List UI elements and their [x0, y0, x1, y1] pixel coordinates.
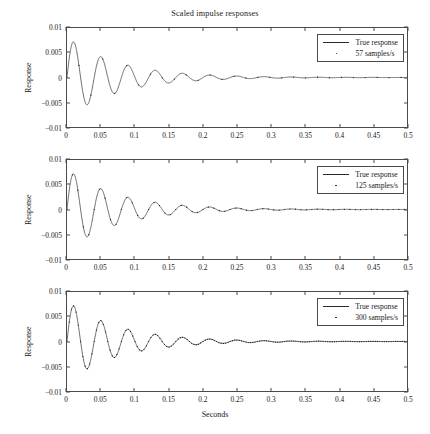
- x-tick-label: 0.4: [335, 131, 344, 140]
- x-tick-label: 0.35: [299, 131, 312, 140]
- x-tick-label: 0.05: [94, 395, 107, 404]
- legend-dot-swatch: [321, 185, 351, 187]
- x-tick-mark: [168, 256, 169, 260]
- x-tick-mark: [202, 291, 203, 295]
- legend-entry-true-response: True response: [321, 37, 398, 48]
- y-tick-label: 0.01: [49, 287, 62, 296]
- y-tick-mark: [404, 341, 408, 342]
- x-tick-mark: [408, 159, 409, 163]
- y-tick-mark: [404, 209, 408, 210]
- chart-panel-2: Response True response 125 samples/s 0.0…: [66, 159, 408, 260]
- x-tick-label: 0.5: [403, 131, 412, 140]
- x-tick-mark: [237, 256, 238, 260]
- x-tick-mark: [202, 388, 203, 392]
- x-tick-label: 0: [64, 263, 68, 272]
- x-tick-label: 0: [64, 395, 68, 404]
- x-tick-label: 0.25: [231, 395, 244, 404]
- y-tick-label: −0.005: [41, 98, 62, 107]
- y-tick-mark: [404, 77, 408, 78]
- x-tick-mark: [66, 256, 67, 260]
- x-tick-mark: [373, 256, 374, 260]
- y-tick-label: −0.01: [45, 256, 62, 265]
- x-tick-label: 0.35: [299, 395, 312, 404]
- x-tick-mark: [408, 256, 409, 260]
- x-tick-mark: [66, 159, 67, 163]
- x-tick-label: 0.5: [403, 263, 412, 272]
- x-tick-mark: [100, 291, 101, 295]
- legend-entry-samples: 300 samples/s: [321, 312, 398, 323]
- x-tick-mark: [271, 27, 272, 31]
- y-tick-mark: [66, 291, 70, 292]
- x-tick-mark: [305, 291, 306, 295]
- x-tick-mark: [339, 27, 340, 31]
- y-axis-label-3: Response: [24, 326, 33, 357]
- y-tick-label: 0.005: [45, 312, 62, 321]
- x-tick-mark: [134, 124, 135, 128]
- x-tick-label: 0.3: [267, 263, 276, 272]
- x-tick-label: 0.4: [335, 395, 344, 404]
- x-tick-mark: [66, 124, 67, 128]
- x-tick-label: 0.3: [267, 131, 276, 140]
- x-tick-mark: [168, 388, 169, 392]
- x-tick-label: 0.1: [130, 263, 139, 272]
- x-tick-label: 0.15: [162, 263, 175, 272]
- y-tick-mark: [66, 52, 70, 53]
- x-tick-label: 0.45: [367, 395, 380, 404]
- y-tick-mark: [66, 234, 70, 235]
- legend-1: True response 57 samples/s: [317, 34, 404, 62]
- x-tick-mark: [339, 124, 340, 128]
- chart-title: Scaled impulse responses: [0, 9, 430, 18]
- x-tick-label: 0.15: [162, 131, 175, 140]
- x-tick-label: 0.05: [94, 263, 107, 272]
- x-tick-mark: [168, 124, 169, 128]
- x-tick-mark: [237, 27, 238, 31]
- x-tick-label: 0.25: [231, 131, 244, 140]
- x-tick-mark: [202, 27, 203, 31]
- x-tick-mark: [202, 159, 203, 163]
- x-tick-label: 0.45: [367, 131, 380, 140]
- legend-label-samples: 300 samples/s: [351, 313, 398, 322]
- chart-panel-1: Response True response 57 samples/s 0.01…: [66, 27, 408, 128]
- y-tick-label: −0.005: [41, 230, 62, 239]
- y-tick-mark: [404, 316, 408, 317]
- legend-line-swatch: [321, 42, 351, 43]
- legend-line-swatch: [321, 174, 351, 175]
- x-tick-mark: [339, 291, 340, 295]
- y-axis-label-1: Response: [24, 62, 33, 93]
- x-tick-label: 0: [64, 131, 68, 140]
- x-tick-mark: [134, 159, 135, 163]
- x-tick-label: 0.5: [403, 395, 412, 404]
- y-tick-mark: [66, 27, 70, 28]
- x-tick-label: 0.1: [130, 131, 139, 140]
- x-tick-mark: [202, 124, 203, 128]
- y-tick-mark: [66, 77, 70, 78]
- x-tick-mark: [271, 256, 272, 260]
- legend-label-samples: 57 samples/s: [351, 49, 394, 58]
- legend-label-true-response: True response: [351, 170, 398, 179]
- x-tick-mark: [100, 159, 101, 163]
- x-tick-mark: [237, 388, 238, 392]
- y-tick-mark: [66, 260, 70, 261]
- legend-entry-true-response: True response: [321, 169, 398, 180]
- y-tick-mark: [66, 341, 70, 342]
- x-tick-mark: [100, 256, 101, 260]
- x-tick-mark: [66, 388, 67, 392]
- y-tick-mark: [404, 184, 408, 185]
- x-tick-label: 0.35: [299, 263, 312, 272]
- x-tick-mark: [271, 159, 272, 163]
- legend-label-true-response: True response: [351, 302, 398, 311]
- x-tick-mark: [271, 388, 272, 392]
- y-tick-label: −0.005: [41, 362, 62, 371]
- x-tick-mark: [66, 291, 67, 295]
- x-tick-mark: [305, 27, 306, 31]
- x-tick-mark: [271, 124, 272, 128]
- x-tick-mark: [408, 291, 409, 295]
- x-tick-mark: [373, 291, 374, 295]
- x-tick-mark: [168, 27, 169, 31]
- x-tick-mark: [339, 159, 340, 163]
- x-axis-label: Seconds: [0, 410, 430, 419]
- legend-dot-swatch: [321, 317, 351, 319]
- x-tick-mark: [237, 159, 238, 163]
- legend-entry-true-response: True response: [321, 301, 398, 312]
- y-tick-label: −0.01: [45, 124, 62, 133]
